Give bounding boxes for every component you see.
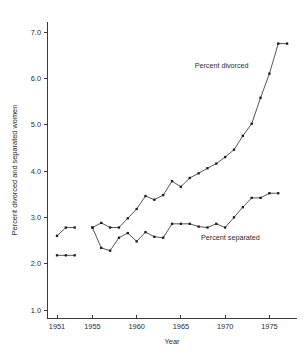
y-tick-label: 1.0 — [31, 306, 41, 315]
series-line-percent-separated — [92, 193, 278, 250]
data-point-marker — [197, 172, 199, 174]
y-tick-label: 7.0 — [31, 28, 41, 37]
y-axis-title: Percent divorced and separated women — [10, 105, 19, 236]
data-point-marker — [127, 217, 129, 219]
data-point-marker — [144, 195, 146, 197]
data-point-marker — [189, 223, 191, 225]
x-tick-label: 1951 — [49, 322, 65, 331]
line-chart: 1.02.03.04.05.06.07.0 195119551960196519… — [0, 0, 307, 356]
y-tick-label: 3.0 — [31, 213, 41, 222]
data-point-marker — [153, 236, 155, 238]
y-tick-label: 2.0 — [31, 259, 41, 268]
data-point-marker — [224, 156, 226, 158]
data-point-marker — [206, 167, 208, 169]
data-point-marker — [118, 237, 120, 239]
data-point-marker — [197, 225, 199, 227]
data-point-marker — [259, 97, 261, 99]
data-point-marker — [127, 232, 129, 234]
x-tick-label: 1975 — [261, 322, 277, 331]
data-point-marker — [65, 254, 67, 256]
series-line-percent-divorced — [57, 228, 75, 236]
x-tick-label: 1965 — [173, 322, 189, 331]
y-tick-label: 5.0 — [31, 120, 41, 129]
data-point-marker — [109, 226, 111, 228]
data-point-marker — [277, 42, 279, 44]
data-point-marker — [277, 192, 279, 194]
x-axis-title: Year — [165, 337, 180, 346]
data-point-marker — [91, 226, 93, 228]
data-point-marker — [180, 186, 182, 188]
data-point-marker — [251, 123, 253, 125]
data-point-marker — [171, 180, 173, 182]
y-axis-ticks: 1.02.03.04.05.06.07.0 — [31, 28, 48, 315]
data-point-marker — [242, 135, 244, 137]
data-point-marker — [251, 197, 253, 199]
data-point-marker — [100, 222, 102, 224]
figure-container: 1.02.03.04.05.06.07.0 195119551960196519… — [0, 0, 307, 356]
axes — [47, 22, 297, 318]
data-point-marker — [215, 223, 217, 225]
data-point-marker — [153, 199, 155, 201]
data-point-marker — [242, 206, 244, 208]
data-point-marker — [109, 250, 111, 252]
data-point-marker — [233, 216, 235, 218]
data-point-marker — [224, 226, 226, 228]
data-point-marker — [118, 226, 120, 228]
data-point-marker — [189, 177, 191, 179]
x-tick-label: 1960 — [128, 322, 144, 331]
data-point-marker — [171, 223, 173, 225]
data-point-marker — [215, 162, 217, 164]
series-line-percent-divorced — [92, 44, 287, 228]
data-point-marker — [74, 254, 76, 256]
x-tick-label: 1955 — [84, 322, 100, 331]
y-tick-label: 4.0 — [31, 167, 41, 176]
data-point-marker — [56, 254, 58, 256]
series-annotation: Percent separated — [201, 233, 260, 242]
data-point-marker — [136, 240, 138, 242]
data-point-marker — [206, 226, 208, 228]
data-point-marker — [65, 226, 67, 228]
data-point-marker — [56, 235, 58, 237]
data-point-marker — [162, 237, 164, 239]
data-point-marker — [268, 73, 270, 75]
x-axis-ticks: 195119551960196519701975 — [49, 315, 278, 332]
data-point-marker — [100, 247, 102, 249]
data-point-marker — [233, 149, 235, 151]
data-point-marker — [136, 208, 138, 210]
series-annotation: Percent divorced — [195, 61, 249, 70]
data-point-marker — [180, 223, 182, 225]
data-point-marker — [268, 192, 270, 194]
data-point-marker — [259, 197, 261, 199]
marker-group — [56, 42, 288, 256]
data-point-marker — [286, 42, 288, 44]
data-point-marker — [162, 194, 164, 196]
y-tick-label: 6.0 — [31, 74, 41, 83]
data-point-marker — [74, 226, 76, 228]
x-tick-label: 1970 — [217, 322, 233, 331]
series-annotations: Percent divorcedPercent separated — [195, 61, 260, 241]
data-point-marker — [144, 231, 146, 233]
